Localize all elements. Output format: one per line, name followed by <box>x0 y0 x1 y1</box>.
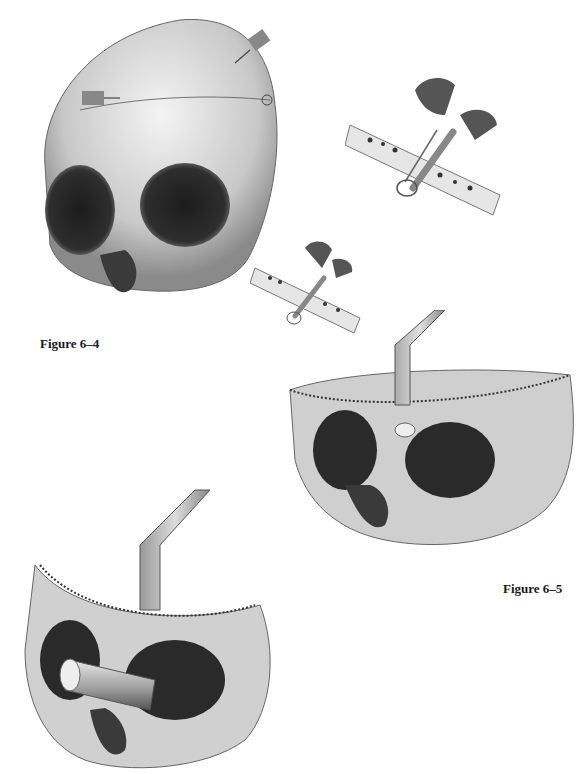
figure-6-5-caption: Figure 6–5 <box>503 581 562 597</box>
figure-6-4-caption: Figure 6–4 <box>40 336 99 352</box>
figure-6-5-skull-illustration <box>285 310 583 555</box>
figure-6-6-skull-illustration <box>15 480 280 774</box>
inset-drill-detail-upper <box>345 70 505 220</box>
